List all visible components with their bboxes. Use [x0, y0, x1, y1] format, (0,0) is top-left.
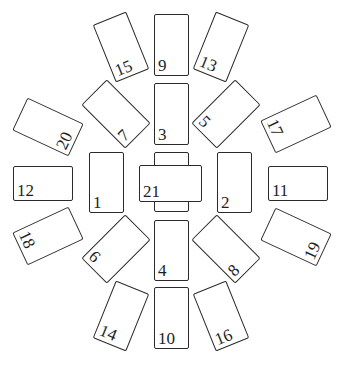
card-number: 15: [113, 57, 135, 79]
card-13: 13: [193, 12, 250, 83]
card-spread-diagram: 9341012121115137520171819681416 21: [0, 0, 340, 367]
card-number: 20: [53, 129, 76, 152]
card-number: 12: [17, 182, 34, 199]
card-4: 4: [154, 220, 189, 281]
card-1: 1: [89, 152, 124, 213]
card-16: 16: [193, 281, 250, 352]
card-number: 16: [213, 326, 235, 348]
card-21: 21: [139, 165, 202, 202]
card-9: 9: [154, 14, 189, 76]
card-number: 2: [221, 194, 230, 211]
card-18: 18: [12, 207, 83, 266]
card-15: 15: [93, 12, 150, 83]
card-7: 7: [81, 79, 150, 148]
card-number: 17: [264, 116, 287, 139]
card-20: 20: [12, 98, 83, 157]
card-17: 17: [260, 95, 331, 154]
card-number: 13: [197, 53, 219, 75]
card-number: 11: [272, 182, 288, 199]
card-2: 2: [217, 152, 252, 213]
card-number: 8: [225, 261, 243, 279]
card-19: 19: [260, 208, 331, 267]
card-5: 5: [191, 79, 260, 148]
card-8: 8: [191, 214, 260, 283]
card-11: 11: [268, 166, 328, 201]
card-number: 14: [97, 322, 119, 344]
card-number: 4: [158, 262, 167, 279]
card-number: 10: [158, 330, 175, 347]
card-number: 3: [158, 126, 167, 143]
card-number: 6: [86, 248, 104, 266]
card-14: 14: [93, 281, 150, 352]
card-12: 12: [13, 166, 73, 201]
card-number: 1: [93, 194, 102, 211]
card-number: 19: [301, 239, 324, 262]
card-3: 3: [154, 83, 189, 145]
card-number: 7: [115, 126, 133, 144]
card-number: 9: [158, 57, 167, 74]
card-6: 6: [81, 214, 150, 283]
card-number: 5: [196, 113, 214, 131]
card-10: 10: [154, 287, 189, 349]
card-number: 21: [143, 183, 160, 200]
card-number: 18: [16, 228, 39, 251]
